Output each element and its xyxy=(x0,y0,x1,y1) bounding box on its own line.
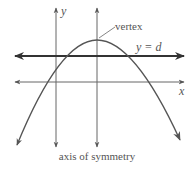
y-axis-label: y xyxy=(60,4,67,18)
parabola-diagram: y vertex y = d x axis of symmetry xyxy=(0,0,194,169)
vertex-label: vertex xyxy=(115,20,143,32)
x-axis-label: x xyxy=(178,84,185,98)
line-d-label: y = d xyxy=(135,40,162,54)
axis-of-symmetry-label: axis of symmetry xyxy=(59,150,136,162)
vertex-leader-line xyxy=(99,27,115,38)
